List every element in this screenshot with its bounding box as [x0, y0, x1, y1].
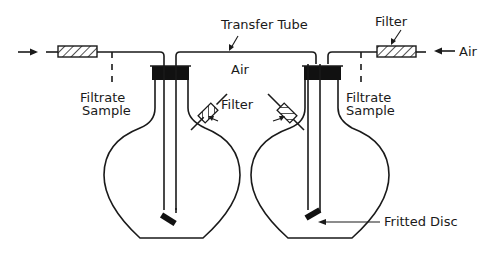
- vent-filter-right: [268, 94, 304, 130]
- fritted-disc-right: [305, 207, 322, 220]
- label-filter-right: Filter: [375, 14, 408, 29]
- inlet-tube-left: [97, 52, 164, 64]
- label-filter-center: Filter: [221, 97, 254, 112]
- label-air-center: Air: [231, 62, 250, 77]
- fritted-disc-left: [160, 212, 177, 226]
- apparatus-diagram: Transfer Tube Filter Air Air Filter Filt…: [0, 0, 496, 257]
- inlet-filter-right: [377, 46, 416, 57]
- label-filtrate-left-2: Sample: [82, 103, 131, 118]
- inlet-tube-right: [328, 52, 377, 64]
- inlet-filter-left: [58, 46, 97, 57]
- stopper-right: [304, 66, 341, 80]
- air-arrow-right: [434, 48, 455, 55]
- inlet-arrow-left: [18, 49, 58, 56]
- stopper-left: [152, 66, 189, 80]
- label-fritted-disc: Fritted Disc: [384, 214, 458, 229]
- label-filtrate-right-2: Sample: [346, 103, 395, 118]
- label-air-right: Air: [459, 44, 478, 59]
- label-transfer-tube: Transfer Tube: [220, 17, 308, 32]
